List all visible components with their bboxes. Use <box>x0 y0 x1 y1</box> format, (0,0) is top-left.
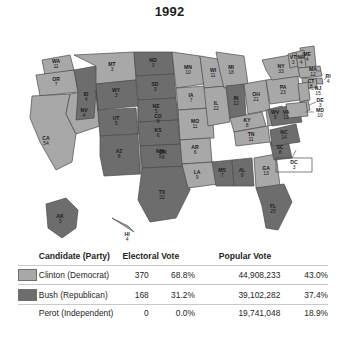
us-map-svg: WA11OR7CA54NV4ID4MT3WY3UT5AZ8CO8NM5ND3SD… <box>0 22 339 244</box>
dc-leader-line <box>292 150 296 158</box>
state-votes-ar: 6 <box>194 149 197 155</box>
table-row: Clinton (Democrat)37068.8%44,908,23343.0… <box>18 266 328 285</box>
electoral-percent: 31.2% <box>159 285 219 304</box>
state-votes-ga: 13 <box>263 170 269 176</box>
state-votes-mt: 3 <box>111 66 114 72</box>
state-votes-tn: 11 <box>248 136 253 142</box>
state-votes-wy: 3 <box>115 92 118 98</box>
us-electoral-map: WA11OR7CA54NV4ID4MT3WY3UT5AZ8CO8NM5ND3SD… <box>0 22 339 244</box>
state-votes-ky: 8 <box>246 122 249 128</box>
electoral-header: Electoral Vote <box>123 247 219 266</box>
table-row: Bush (Republican)16831.2%39,102,28237.4% <box>18 285 328 304</box>
results-table: Candidate (Party) Electoral Vote Popular… <box>18 247 328 321</box>
popular-percent: 18.9% <box>294 304 328 321</box>
state-votes-ms: 7 <box>221 172 224 178</box>
state-votes-vt: 3 <box>292 59 295 65</box>
state-votes-nc: 14 <box>281 134 287 140</box>
state-votes-pa: 23 <box>280 89 286 95</box>
state-votes-il: 22 <box>213 105 219 111</box>
candidate-header: Candidate (Party) <box>39 247 123 266</box>
state-votes-ok: 8 <box>162 154 165 160</box>
state-nj <box>298 82 310 102</box>
state-votes-or: 7 <box>55 81 58 87</box>
state-votes-ri: 4 <box>327 78 330 84</box>
legend-swatch-cell <box>18 285 39 304</box>
state-votes-nv: 4 <box>83 112 86 118</box>
leader-de <box>309 102 316 105</box>
state-votes-ut: 5 <box>115 120 118 126</box>
candidate-name: Clinton (Democrat) <box>39 266 123 285</box>
state-votes-wi: 11 <box>210 72 215 78</box>
state-votes-sd: 3 <box>154 86 157 92</box>
table-row: Perot (Independent)00.0%19,741,04818.9% <box>18 304 328 321</box>
popular-header: Popular Vote <box>219 247 328 266</box>
state-votes-va: 13 <box>283 114 289 120</box>
state-votes-sc: 8 <box>279 149 282 155</box>
electoral-votes: 168 <box>123 285 159 304</box>
electoral-map-figure: 1992 WA11OR7CA54NV4ID4MT3WY3UT5AZ8CO8NM5… <box>0 0 339 337</box>
state-votes-ia: 7 <box>190 97 193 103</box>
state-votes-dc: 3 <box>293 164 296 170</box>
state-votes-md: 10 <box>317 112 323 118</box>
state-votes-tx: 32 <box>159 194 165 200</box>
legend-swatch <box>18 269 37 281</box>
table-header-row: Candidate (Party) Electoral Vote Popular… <box>18 247 328 266</box>
state-hi <box>112 218 134 232</box>
electoral-percent: 0.0% <box>159 304 219 321</box>
state-votes-fl: 25 <box>270 208 276 214</box>
state-votes-wv: 5 <box>274 114 277 120</box>
legend-swatch-cell <box>18 266 39 285</box>
electoral-votes: 0 <box>123 304 159 321</box>
popular-votes: 39,102,282 <box>219 285 294 304</box>
state-votes-mi: 18 <box>228 69 234 75</box>
state-votes-al: 9 <box>241 172 244 178</box>
popular-percent: 37.4% <box>294 285 328 304</box>
legend-swatch <box>18 289 37 301</box>
page-title: 1992 <box>0 4 339 19</box>
state-votes-me: 4 <box>306 56 309 62</box>
electoral-percent: 68.8% <box>159 266 219 285</box>
state-votes-ne: 5 <box>155 108 158 114</box>
candidate-name: Perot (Independent) <box>39 304 123 321</box>
state-votes-ks: 6 <box>157 132 160 138</box>
state-votes-hi: 4 <box>126 236 129 242</box>
state-votes-oh: 21 <box>253 96 259 102</box>
state-votes-nj: 15 <box>315 90 321 96</box>
legend-swatch-cell <box>18 304 39 321</box>
state-votes-mo: 11 <box>192 123 197 129</box>
state-votes-wa: 11 <box>53 63 58 69</box>
state-votes-nd: 3 <box>152 62 155 68</box>
state-votes-co: 8 <box>157 118 160 124</box>
state-votes-ma: 12 <box>310 71 316 77</box>
state-votes-id: 4 <box>85 96 88 102</box>
state-ri <box>316 78 323 84</box>
swatch-header <box>18 247 39 266</box>
popular-votes: 44,908,233 <box>219 266 294 285</box>
candidate-name: Bush (Republican) <box>39 285 123 304</box>
popular-votes: 19,741,048 <box>219 304 294 321</box>
state-votes-ny: 33 <box>278 68 284 74</box>
state-votes-mn: 10 <box>185 69 191 75</box>
electoral-votes: 370 <box>123 266 159 285</box>
state-votes-nh: 4 <box>300 59 303 65</box>
state-votes-la: 9 <box>196 174 199 180</box>
popular-percent: 43.0% <box>294 266 328 285</box>
state-votes-in: 12 <box>233 100 239 106</box>
state-votes-az: 8 <box>118 153 121 159</box>
state-votes-ak: 3 <box>59 218 62 224</box>
state-votes-ca: 54 <box>43 140 49 146</box>
